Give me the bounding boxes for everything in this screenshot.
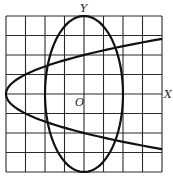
- grid: [6, 16, 162, 172]
- x-axis-label: X: [163, 88, 173, 101]
- y-axis-label: Y: [80, 2, 89, 15]
- diagram: Y X O: [0, 0, 173, 179]
- origin-label: O: [75, 96, 84, 109]
